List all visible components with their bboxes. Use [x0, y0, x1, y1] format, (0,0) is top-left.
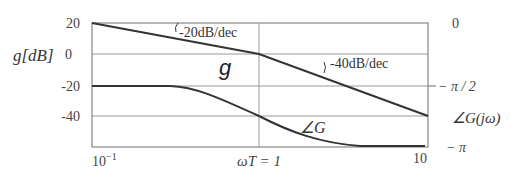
curve-g-label: g [219, 55, 232, 80]
slope2-marker [324, 62, 326, 73]
slope1-marker [175, 23, 178, 32]
y-left-tick-0: 0 [65, 47, 72, 62]
y-left-tick-m40: -40 [61, 109, 80, 124]
y-left-tick-20: 20 [66, 16, 80, 31]
y-right-axis-label: ∠G(jω) [452, 110, 501, 127]
slope2-label: -40dB/dec [330, 56, 388, 71]
y-right-tick-0: 0 [452, 16, 459, 31]
slope1-label: -20dB/dec [179, 25, 237, 40]
y-left-axis-label: g[dB] [13, 46, 54, 65]
bode-plot: -20dB/dec -40dB/dec g ∠G 20 0 -20 -40 g[… [0, 0, 520, 191]
y-right-tick-half-pi: − π / 2 [438, 79, 476, 94]
x-tick-mid: ωT = 1 [237, 153, 281, 169]
y-left-tick-m20: -20 [61, 79, 80, 94]
x-tick-right: 10 [413, 151, 427, 166]
x-tick-left: 10−1 [92, 151, 117, 169]
y-right-tick-pi: − π [446, 140, 467, 155]
curve-phase-label: ∠G [300, 119, 326, 136]
